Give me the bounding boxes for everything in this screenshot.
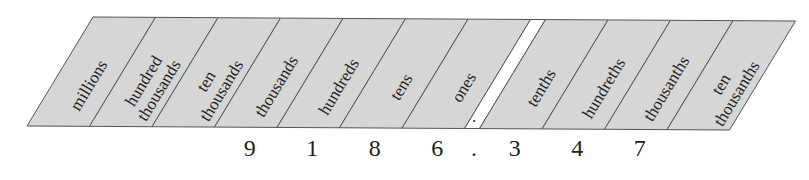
digit: 7 [634,135,646,161]
place-value-chart: millionshundredthousandstenthousandsthou… [0,0,809,180]
digit: 3 [509,135,521,161]
decimal-point-digit: . [471,135,477,161]
digit: 4 [571,135,583,161]
digit: 8 [369,135,381,161]
digit: 1 [306,135,318,161]
digit: 6 [431,135,443,161]
decimal-point-mark: . [472,107,476,126]
digit: 9 [244,135,256,161]
